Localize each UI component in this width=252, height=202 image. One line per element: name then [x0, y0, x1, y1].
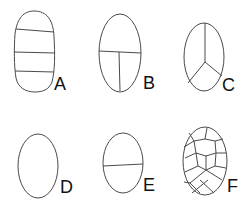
- cell-outline-d: [18, 134, 58, 198]
- wall-e-transverse: [103, 164, 143, 166]
- wall-f-9: [215, 166, 226, 168]
- panel-d: D: [18, 134, 73, 198]
- panel-f: F: [183, 127, 238, 196]
- label-a: A: [54, 74, 66, 94]
- wall-c-right: [205, 62, 222, 76]
- wall-a-3: [15, 71, 54, 72]
- cell-outline-a: [14, 11, 54, 92]
- wall-c-left: [188, 62, 205, 83]
- label-f: F: [227, 176, 238, 196]
- wall-b-transverse: [99, 51, 141, 53]
- wall-f-11: [206, 170, 222, 180]
- wall-a-1: [16, 29, 54, 32]
- wall-f-14: [200, 180, 214, 193]
- panel-b: B: [99, 14, 155, 93]
- wall-f-2: [205, 128, 207, 139]
- label-b: B: [143, 73, 155, 93]
- wall-a-2: [14, 52, 55, 53]
- label-d: D: [60, 177, 73, 197]
- label-e: E: [143, 175, 155, 195]
- wall-f-15: [192, 180, 208, 193]
- wall-f-5: [185, 153, 196, 158]
- panel-a: A: [14, 11, 66, 94]
- wall-f-13: [184, 182, 190, 183]
- wall-f-upper-ring: [194, 139, 216, 156]
- wall-b-longitudinal: [119, 52, 120, 91]
- cell-outline-e: [103, 133, 143, 193]
- label-c: C: [222, 75, 235, 95]
- wall-f-8: [185, 166, 198, 172]
- panel-e: E: [103, 133, 155, 195]
- panel-c: C: [184, 23, 235, 95]
- diagram-canvas: A B C D E: [0, 0, 252, 202]
- wall-f-10: [190, 170, 206, 183]
